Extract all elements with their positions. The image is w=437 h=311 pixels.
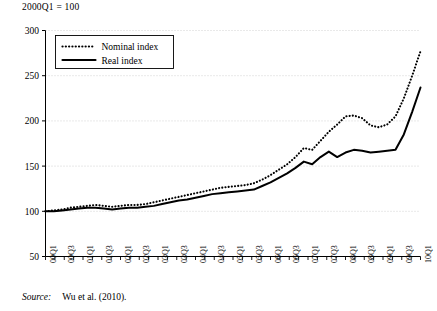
y-tick-label-250: 250 <box>25 71 40 81</box>
series-line-nominal-index <box>46 51 421 211</box>
source-label: Source: <box>22 292 51 302</box>
y-tick-label-50: 50 <box>30 252 40 262</box>
y-tick-label-150: 150 <box>25 162 40 172</box>
chart-plot-area: 50100150200250300Nominal indexReal index <box>0 0 437 311</box>
y-tick-label-300: 300 <box>25 26 40 36</box>
source-note: Source:Wu et al. (2010). <box>22 292 126 302</box>
y-tick-label-100: 100 <box>25 207 40 217</box>
series-line-real-index <box>46 87 421 211</box>
legend-label-real-index: Real index <box>102 56 143 66</box>
figure-container: 2000Q1 = 100 50100150200250300Nominal in… <box>0 0 437 311</box>
y-tick-label-200: 200 <box>25 116 40 126</box>
source-citation: Wu et al. (2010). <box>62 292 126 302</box>
legend-label-nominal-index: Nominal index <box>102 42 159 52</box>
